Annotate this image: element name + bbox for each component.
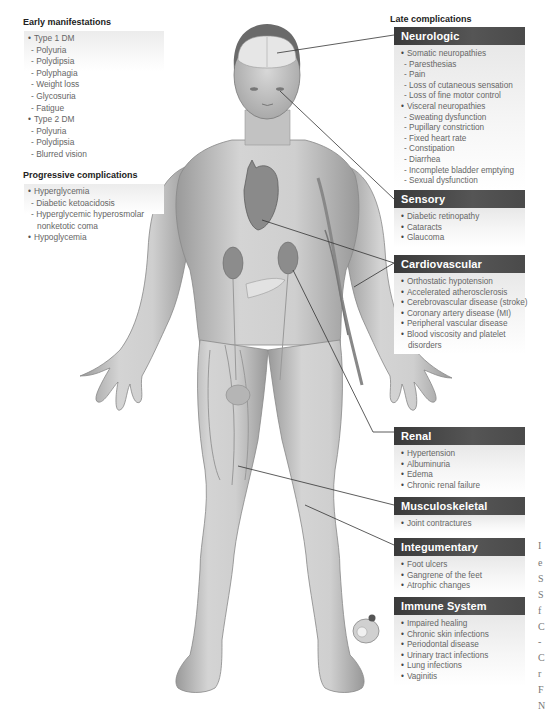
early-manifestations-title: Early manifestations <box>23 17 111 27</box>
list-item: Chronic renal failure <box>401 481 525 492</box>
renal-list: HypertensionAlbuminuriaEdemaChronic rena… <box>401 449 525 491</box>
edge-fragment: S <box>538 573 544 584</box>
box-musculoskeletal: Musculoskeletal Joint contractures <box>394 497 525 533</box>
edge-fragment: N <box>538 700 545 711</box>
left-kidney <box>223 247 243 279</box>
edge-fragment: - <box>538 636 541 647</box>
list-item: Diabetic retinopathy <box>401 212 525 223</box>
list-item: Peripheral vascular disease <box>401 319 525 330</box>
immune-system-list: Impaired healingChronic skin infectionsP… <box>401 619 525 683</box>
list-item: Chronic skin infections <box>401 630 525 641</box>
neurologic-list: Somatic neuropathiesParesthesiasPainLoss… <box>401 49 525 187</box>
list-item: Loss of fine motor control <box>401 91 525 102</box>
late-complications-title: Late complications <box>390 14 472 24</box>
list-item: Hyperglycemia <box>28 186 144 198</box>
list-item: Polydipsia <box>28 56 87 68</box>
list-item: Diarrhea <box>401 155 525 166</box>
list-item: Hyperglycemic hyperosmolar <box>28 209 144 221</box>
box-sensory: Sensory Diabetic retinopathyCataractsGla… <box>394 190 525 247</box>
box-renal: Renal HypertensionAlbuminuriaEdemaChroni… <box>394 427 525 494</box>
list-item: Visceral neuropathies <box>401 102 525 113</box>
immune-cell-icon <box>353 615 379 644</box>
list-item: Incomplete bladder emptying <box>401 166 525 177</box>
list-item: Vaginitis <box>401 672 525 683</box>
right-kidney <box>278 242 298 274</box>
edge-fragment: r <box>538 668 541 679</box>
progressive-complications-title: Progressive complications <box>23 170 138 180</box>
list-item: Type 2 DM <box>28 114 87 126</box>
list-item: Pain <box>401 70 525 81</box>
sensory-list: Diabetic retinopathyCataractsGlaucoma <box>401 212 525 244</box>
integumentary-header: Integumentary <box>394 538 525 556</box>
list-item: Orthostatic hypotension <box>401 277 525 288</box>
list-item: Polyphagia <box>28 68 87 80</box>
list-item: Foot ulcers <box>401 560 525 571</box>
list-item: Joint contractures <box>401 519 525 530</box>
list-item: Periodontal disease <box>401 640 525 651</box>
list-item: Fixed heart rate <box>401 134 525 145</box>
list-item: nonketotic coma <box>28 221 144 233</box>
list-item: Diabetic ketoacidosis <box>28 198 144 210</box>
list-item: Type 1 DM <box>28 33 87 45</box>
edge-fragment: S <box>538 589 544 600</box>
list-item: Hypertension <box>401 449 525 460</box>
list-item: Pupillary constriction <box>401 123 525 134</box>
list-item: Lung infections <box>401 661 525 672</box>
list-item: Polydipsia <box>28 137 87 149</box>
edge-fragment: F <box>538 684 544 695</box>
early-manifestations-list: Type 1 DMPolyuriaPolydipsiaPolyphagiaWei… <box>28 33 87 161</box>
list-item: Sweating dysfunction <box>401 113 525 124</box>
list-item: Somatic neuropathies <box>401 49 525 60</box>
list-item: Impaired healing <box>401 619 525 630</box>
list-item: Glaucoma <box>401 233 525 244</box>
renal-header: Renal <box>394 427 525 445</box>
left-leg <box>176 340 268 693</box>
box-neurologic: Neurologic Somatic neuropathiesParesthes… <box>394 27 525 190</box>
list-item: Atrophic changes <box>401 581 525 592</box>
list-item: Weight loss <box>28 79 87 91</box>
cardiovascular-list: Orthostatic hypotensionAccelerated ather… <box>401 277 525 351</box>
list-item: Albuminuria <box>401 460 525 471</box>
list-item: Gangrene of the feet <box>401 571 525 582</box>
edge-fragment: f <box>538 605 541 616</box>
bladder <box>226 385 250 405</box>
edge-fragment: C <box>538 652 545 663</box>
list-item: Fatigue <box>28 103 87 115</box>
box-integumentary: Integumentary Foot ulcersGangrene of the… <box>394 538 525 595</box>
list-item: Hypoglycemia <box>28 232 144 244</box>
list-item: Coronary artery disease (MI) <box>401 309 525 320</box>
list-item: Blurred vision <box>28 149 87 161</box>
progressive-complications-list: HyperglycemiaDiabetic ketoacidosisHyperg… <box>28 186 144 244</box>
list-item: Edema <box>401 470 525 481</box>
box-immune-system: Immune System Impaired healingChronic sk… <box>394 597 525 686</box>
musculoskeletal-list: Joint contractures <box>401 519 525 530</box>
edge-fragment: C <box>538 621 545 632</box>
list-item: Accelerated atherosclerosis <box>401 288 525 299</box>
edge-fragment: I <box>538 540 541 551</box>
box-cardiovascular: Cardiovascular Orthostatic hypotensionAc… <box>394 255 525 354</box>
list-item: Paresthesias <box>401 60 525 71</box>
list-item: Cerebrovascular disease (stroke) <box>401 298 525 309</box>
neurologic-header: Neurologic <box>394 27 525 45</box>
right-leg <box>268 340 364 693</box>
sensory-header: Sensory <box>394 190 525 208</box>
list-item: Glycosuria <box>28 91 87 103</box>
immune-system-header: Immune System <box>394 597 525 615</box>
list-item: Loss of cutaneous sensation <box>401 81 525 92</box>
cardiovascular-header: Cardiovascular <box>394 255 525 273</box>
integumentary-list: Foot ulcersGangrene of the feetAtrophic … <box>401 560 525 592</box>
list-item: Polyuria <box>28 45 87 57</box>
list-item: Blood viscosity and platelet <box>401 330 525 341</box>
list-item: Urinary tract infections <box>401 651 525 662</box>
list-item: Cataracts <box>401 223 525 234</box>
list-item: Constipation <box>401 144 525 155</box>
list-item: Polyuria <box>28 126 87 138</box>
musculoskeletal-header: Musculoskeletal <box>394 497 525 515</box>
list-item: Sexual dysfunction <box>401 176 525 187</box>
edge-fragment: e <box>538 557 542 568</box>
list-item: disorders <box>401 341 525 352</box>
